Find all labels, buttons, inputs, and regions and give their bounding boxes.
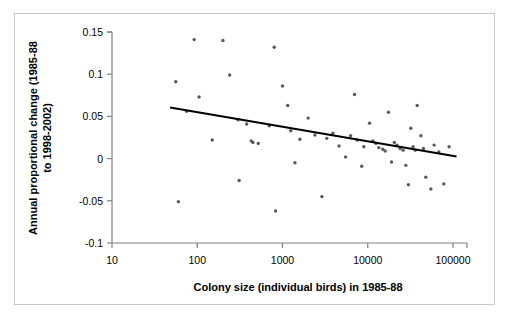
x-tick-label: 1000 <box>271 254 295 266</box>
x-tick-label: 100 <box>188 254 206 266</box>
x-tick-labels: 10100100010000100000 <box>106 254 471 266</box>
data-point <box>306 116 309 119</box>
data-point <box>293 161 296 164</box>
data-point <box>257 142 260 145</box>
data-point <box>286 104 289 107</box>
trend-line-group <box>170 108 456 157</box>
x-tick-label: 10000 <box>353 254 382 266</box>
data-point <box>211 138 214 141</box>
data-point <box>221 39 224 42</box>
y-tick-label: 0.1 <box>88 68 103 80</box>
data-point <box>429 187 432 190</box>
data-point <box>360 165 363 168</box>
trend-line <box>170 108 456 157</box>
data-point <box>415 104 418 107</box>
figure-frame: 10100100010000100000 -0.1-0.0500.050.10.… <box>14 13 495 305</box>
data-point <box>174 80 177 83</box>
x-tick-label: 100000 <box>435 254 470 266</box>
data-point <box>432 143 435 146</box>
data-point <box>353 93 356 96</box>
data-point <box>177 200 180 203</box>
data-point <box>273 45 276 48</box>
axes-group <box>112 32 467 243</box>
data-point <box>393 141 396 144</box>
data-points-group <box>174 38 451 213</box>
data-point <box>320 195 323 198</box>
data-point <box>424 175 427 178</box>
data-point <box>337 144 340 147</box>
data-point <box>387 110 390 113</box>
data-point <box>401 148 404 151</box>
data-point <box>419 134 422 137</box>
data-point <box>390 160 393 163</box>
data-point <box>274 209 277 212</box>
y-tick-label: 0.15 <box>83 26 104 38</box>
data-point <box>298 137 301 140</box>
y-tick-label: -0.1 <box>85 237 103 249</box>
data-point <box>281 84 284 87</box>
data-point <box>377 146 380 149</box>
data-point <box>228 73 231 76</box>
data-point <box>313 133 316 136</box>
y-tick-label: -0.05 <box>79 195 103 207</box>
data-point <box>245 122 248 125</box>
data-point <box>197 95 200 98</box>
data-point <box>442 182 445 185</box>
data-point <box>407 183 410 186</box>
data-point <box>383 149 386 152</box>
data-point <box>192 38 195 41</box>
data-point <box>362 145 365 148</box>
y-tick-label: 0 <box>97 153 103 165</box>
tick-marks-group <box>107 32 467 248</box>
y-tick-label: 0.05 <box>83 110 104 122</box>
data-point <box>349 134 352 137</box>
data-point <box>447 145 450 148</box>
x-tick-label: 10 <box>106 254 118 266</box>
data-point <box>251 141 254 144</box>
data-point <box>409 127 412 130</box>
data-point <box>404 164 407 167</box>
data-point <box>237 179 240 182</box>
y-axis-title-line1: Annual proportional change (1985-88 <box>27 41 39 235</box>
data-point <box>289 129 292 132</box>
data-point <box>368 121 371 124</box>
data-point <box>325 137 328 140</box>
y-axis-title-line2: to 1998-2002) <box>41 103 53 173</box>
y-tick-labels: -0.1-0.0500.050.10.15 <box>79 26 103 249</box>
scatter-plot: 10100100010000100000 -0.1-0.0500.050.10.… <box>15 14 494 304</box>
x-axis-title: Colony size (individual birds) in 1985-8… <box>193 281 402 293</box>
data-point <box>344 155 347 158</box>
